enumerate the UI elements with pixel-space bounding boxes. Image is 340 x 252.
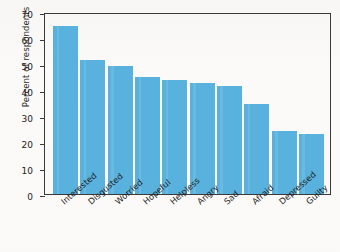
y-tick-10: 10 <box>40 170 45 171</box>
plot-area: 010203040506070 <box>44 13 331 195</box>
bar[interactable] <box>244 104 269 194</box>
y-tick-70: 70 <box>40 14 45 15</box>
bar[interactable] <box>53 26 78 194</box>
y-tick-0: 0 <box>40 196 45 197</box>
bar[interactable] <box>217 86 242 194</box>
bar-highlight <box>220 86 223 194</box>
y-tick-label: 70 <box>22 10 33 20</box>
y-tick-label: 30 <box>22 114 33 124</box>
y-tick-label: 50 <box>22 62 33 72</box>
bar[interactable] <box>135 77 160 194</box>
y-tick-60: 60 <box>40 40 45 41</box>
y-tick-20: 20 <box>40 144 45 145</box>
y-tick-label: 0 <box>27 192 33 202</box>
y-tick-30: 30 <box>40 118 45 119</box>
plot-inner: 010203040506070 <box>45 14 330 194</box>
y-tick-label: 40 <box>22 88 33 98</box>
bar-highlight <box>275 131 278 194</box>
bar-highlight <box>248 104 251 194</box>
bar-highlight <box>57 26 60 194</box>
chart-page: Percent of respondents 010203040506070 I… <box>0 0 340 252</box>
bar-highlight <box>139 77 142 194</box>
y-tick-50: 50 <box>40 66 45 67</box>
y-tick-label: 20 <box>22 140 33 150</box>
y-tick-40: 40 <box>40 92 45 93</box>
y-tick-label: 60 <box>22 36 33 46</box>
y-tick-label: 10 <box>22 166 33 176</box>
